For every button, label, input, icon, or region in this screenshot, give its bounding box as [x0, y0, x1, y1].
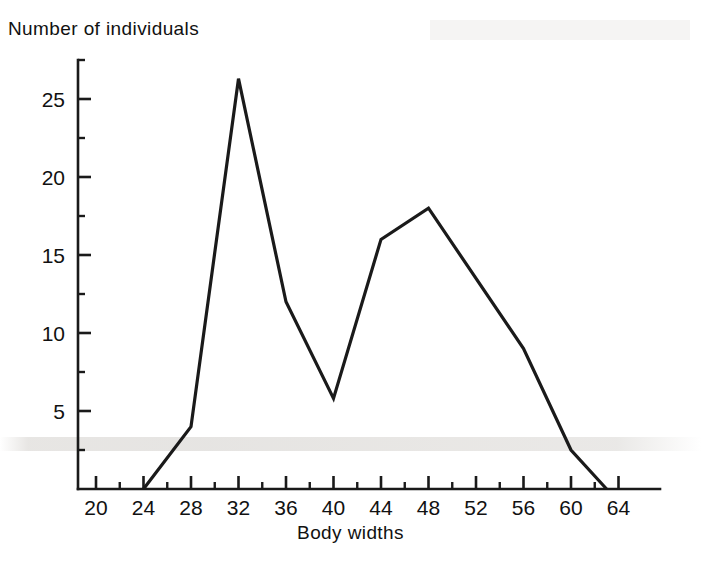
x-tick-label: 28 — [179, 496, 202, 519]
x-tick-label: 52 — [464, 496, 487, 519]
x-tick-label: 48 — [417, 496, 440, 519]
x-tick-label: 32 — [227, 496, 250, 519]
x-tick-label: 44 — [369, 496, 393, 519]
x-tick-label: 40 — [322, 496, 345, 519]
line-chart-plot: 510152025202428323640444852566064 — [0, 0, 701, 565]
x-tick-label: 56 — [512, 496, 535, 519]
y-tick-label: 15 — [42, 244, 65, 267]
x-axis-title: Body widths — [0, 522, 701, 544]
x-tick-label: 64 — [607, 496, 631, 519]
x-tick-label: 20 — [84, 496, 107, 519]
y-tick-label: 10 — [42, 322, 65, 345]
x-tick-label: 24 — [132, 496, 156, 519]
y-tick-label: 20 — [42, 166, 65, 189]
x-tick-label: 60 — [559, 496, 582, 519]
data-series-line — [144, 79, 607, 489]
chart-figure: Number of individuals 510152025202428323… — [0, 0, 701, 565]
y-tick-label: 25 — [42, 88, 65, 111]
x-tick-label: 36 — [274, 496, 297, 519]
y-tick-label: 5 — [53, 400, 65, 423]
